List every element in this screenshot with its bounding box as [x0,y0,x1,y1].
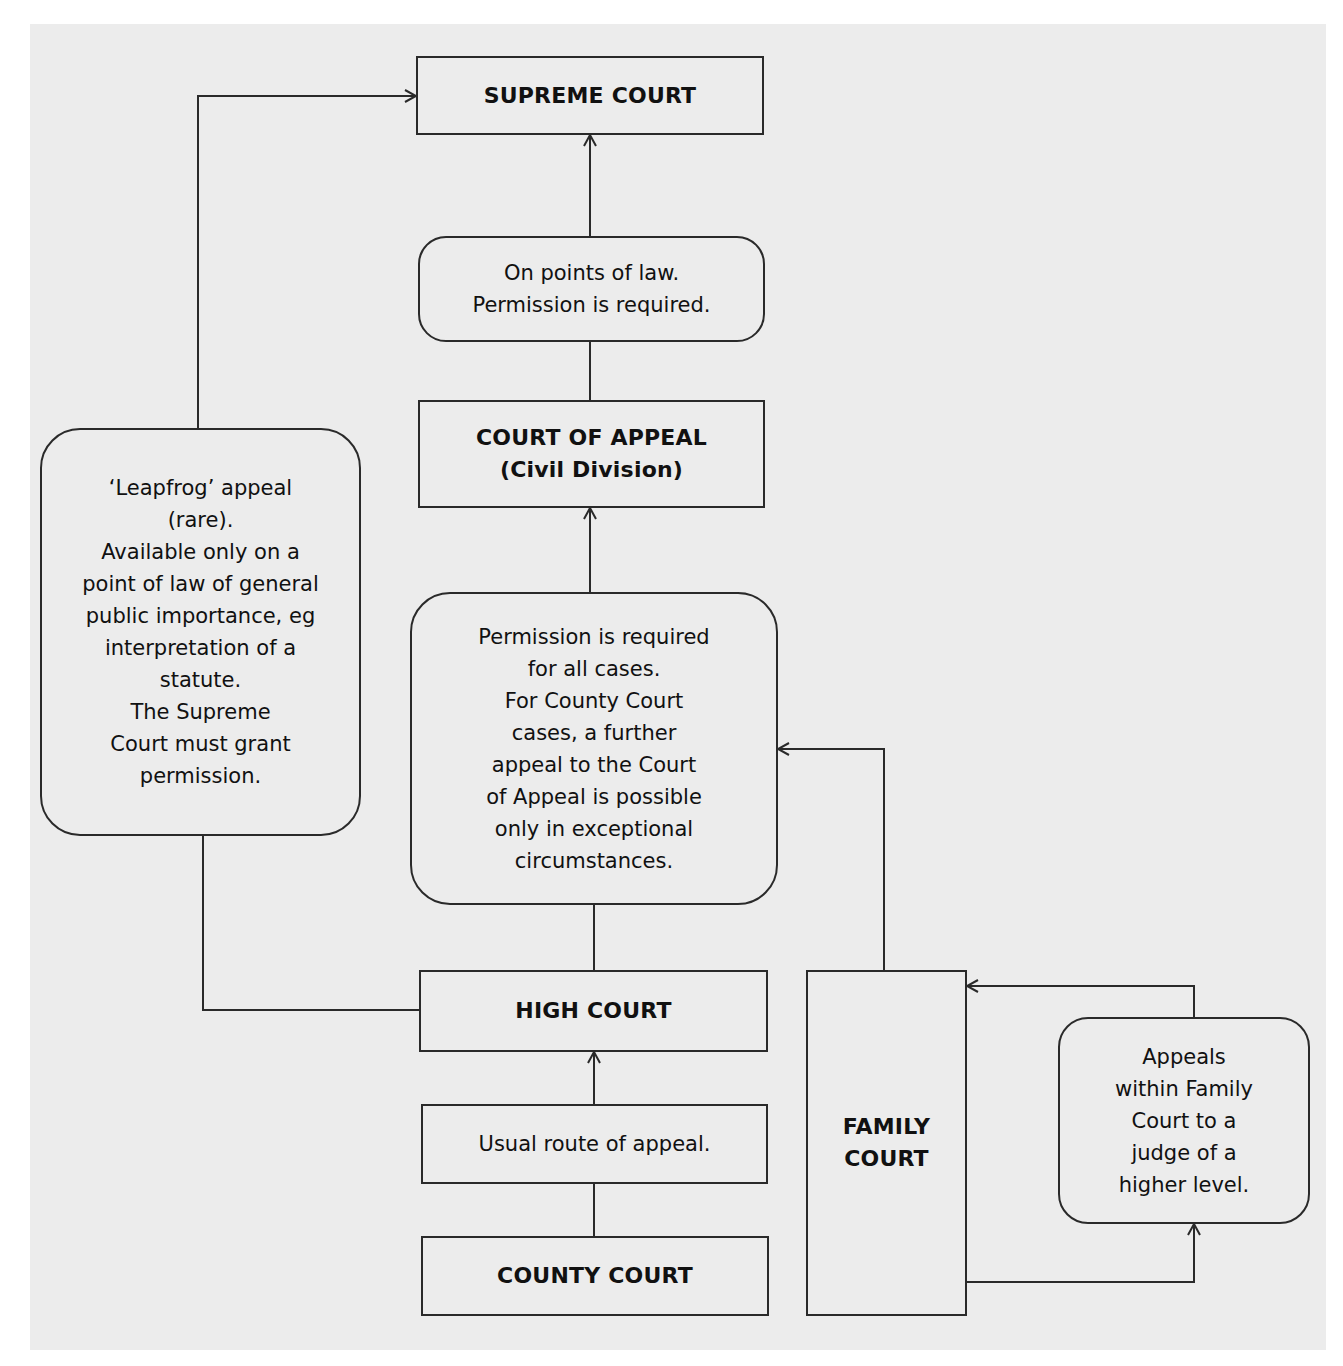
high-court-label: HIGH COURT [515,995,671,1027]
node-permission-note: Permission is required for all cases. Fo… [410,592,778,905]
edge-high-to-leapfrog [203,836,419,1010]
note-line: higher level. [1115,1169,1253,1201]
edge-leapfrog-to-supreme [198,96,416,428]
note-line: appeal to the Court [478,749,709,781]
family-court-label: FAMILY [843,1111,930,1143]
note-line: interpretation of a [82,632,318,664]
supreme-court-label: SUPREME COURT [484,80,697,112]
court-of-appeal-label: COURT OF APPEAL [476,422,707,454]
node-county-court: COUNTY COURT [421,1236,769,1316]
note-line: point of law of general [82,568,318,600]
node-supreme-court: SUPREME COURT [416,56,764,135]
note-line: For County Court [478,685,709,717]
node-court-of-appeal: COURT OF APPEAL (Civil Division) [418,400,765,508]
note-line: of Appeal is possible [478,781,709,813]
node-family-court: FAMILY COURT [806,970,967,1316]
note-line: Usual route of appeal. [479,1128,711,1160]
note-line: Permission is required. [472,289,710,321]
court-of-appeal-sublabel: (Civil Division) [476,454,707,486]
county-court-label: COUNTY COURT [497,1260,693,1292]
note-line: The Supreme [82,696,318,728]
note-line: judge of a [1115,1137,1253,1169]
note-line: Available only on a [82,536,318,568]
note-line: Permission is required [478,621,709,653]
note-line: cases, a further [478,717,709,749]
note-line: Appeals [1115,1041,1253,1073]
edge-family-to-internal [967,1224,1194,1282]
node-leapfrog-note: ‘Leapfrog’ appeal (rare). Available only… [40,428,361,836]
note-line: ‘Leapfrog’ appeal [82,472,318,504]
node-family-appeals-note: Appeals within Family Court to a judge o… [1058,1017,1310,1224]
note-line: (rare). [82,504,318,536]
node-high-court: HIGH COURT [419,970,768,1052]
note-line: On points of law. [472,257,710,289]
family-court-label: COURT [843,1143,930,1175]
note-line: Court to a [1115,1105,1253,1137]
note-line: permission. [82,760,318,792]
note-line: circumstances. [478,845,709,877]
note-line: only in exceptional [478,813,709,845]
node-usual-route: Usual route of appeal. [421,1104,768,1184]
node-points-of-law: On points of law. Permission is required… [418,236,765,342]
edge-internal-to-family [967,986,1194,1017]
note-line: for all cases. [478,653,709,685]
note-line: within Family [1115,1073,1253,1105]
note-line: statute. [82,664,318,696]
note-line: Court must grant [82,728,318,760]
edge-family-to-permission [778,749,884,970]
note-line: public importance, eg [82,600,318,632]
